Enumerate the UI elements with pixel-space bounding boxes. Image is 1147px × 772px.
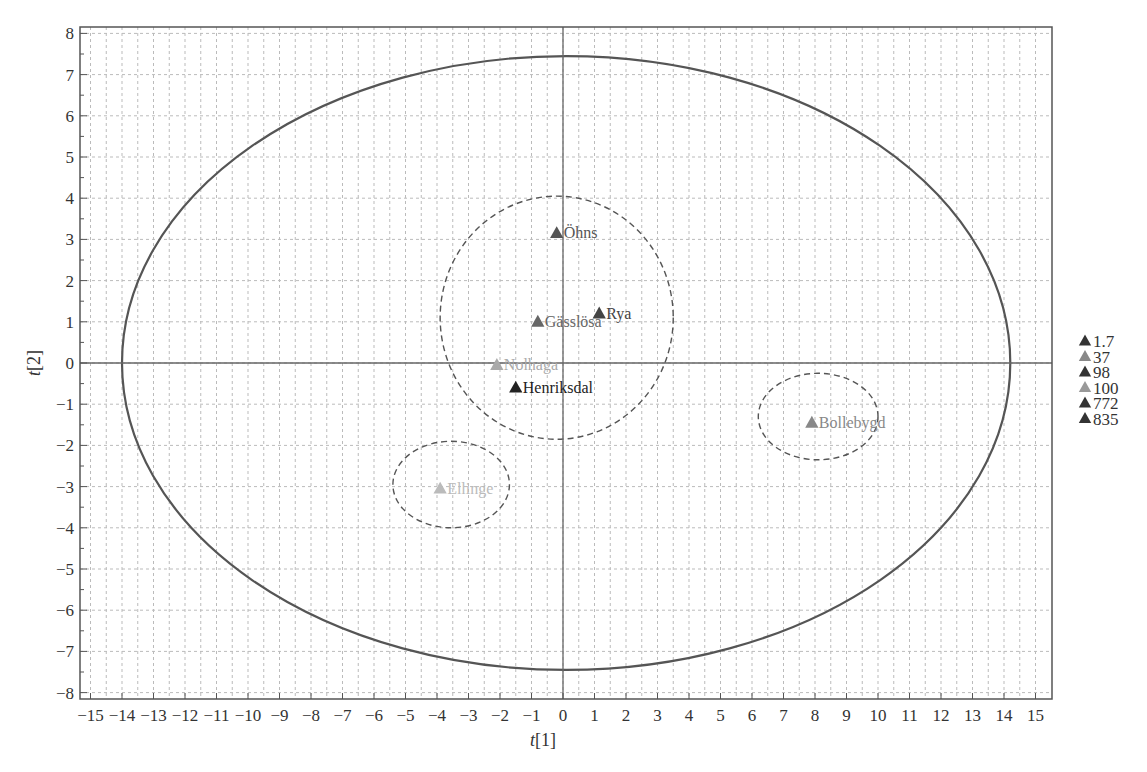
y-tick-label: 6 [66, 107, 75, 126]
x-tick-label: −11 [204, 706, 230, 725]
y-tick-label: −5 [56, 560, 74, 579]
point-label: Rya [606, 305, 631, 323]
x-tick-label: −15 [77, 706, 104, 725]
x-tick-label: −12 [172, 706, 199, 725]
x-tick-label: 4 [685, 706, 694, 725]
x-tick-label: −14 [109, 706, 136, 725]
y-tick-label: 5 [66, 148, 75, 167]
legend-entry: 835 [1079, 410, 1119, 429]
x-tick-label: 8 [811, 706, 820, 725]
x-tick-label: 7 [779, 706, 788, 725]
data-point: Gässlösa [531, 313, 602, 330]
data-point: Henriksdal [509, 379, 593, 396]
x-axis-label: t[1] [530, 730, 556, 750]
x-tick-label: 3 [653, 706, 662, 725]
x-tick-label: 15 [1027, 706, 1044, 725]
point-label: Nolhaga [504, 356, 558, 374]
y-tick-label: 1 [66, 313, 75, 332]
point-label: Henriksdal [523, 379, 594, 396]
point-label: Ellinge [447, 480, 493, 498]
y-tick-label: −6 [56, 601, 74, 620]
y-tick-label: 2 [66, 272, 75, 291]
x-tick-label: −5 [396, 706, 414, 725]
point-label: Bollebygd [819, 414, 886, 432]
x-tick-label: 0 [559, 706, 568, 725]
triangle-legend-icon [1079, 397, 1091, 408]
x-tick-label: −1 [522, 706, 540, 725]
x-tick-label: 14 [996, 706, 1014, 725]
y-tick-label: −4 [56, 519, 75, 538]
triangle-marker-icon [531, 315, 544, 327]
y-tick-label: −2 [56, 436, 74, 455]
triangle-marker-icon [509, 381, 522, 393]
x-tick-label: −7 [333, 706, 352, 725]
x-tick-label: −13 [140, 706, 167, 725]
triangle-legend-icon [1079, 350, 1091, 361]
data-points: ÖhnsRyaGässlösaNolhagaHenriksdalEllingeB… [434, 224, 886, 497]
y-tick-label: −1 [56, 395, 74, 414]
point-label: Gässlösa [545, 313, 602, 330]
x-tick-label: 11 [901, 706, 917, 725]
data-point: Ellinge [434, 480, 494, 498]
x-tick-label: −4 [428, 706, 447, 725]
y-tick-label: 8 [66, 24, 75, 43]
triangle-marker-icon [805, 416, 818, 428]
y-tick-label: 0 [66, 354, 75, 373]
triangle-marker-icon [490, 358, 503, 370]
y-tick-label: −7 [56, 642, 75, 661]
y-tick-label: −3 [56, 478, 74, 497]
zero-axes [80, 27, 1052, 699]
triangle-marker-icon [434, 482, 447, 494]
y-tick-label: −8 [56, 684, 74, 703]
x-tick-label: 1 [590, 706, 599, 725]
legend: 1.73798100772835 [1079, 332, 1119, 429]
triangle-legend-icon [1079, 335, 1091, 346]
y-tick-label: 4 [66, 189, 75, 208]
x-tick-label: 6 [748, 706, 757, 725]
triangle-legend-icon [1079, 412, 1091, 423]
x-tick-label: 10 [870, 706, 887, 725]
y-tick-label: 7 [66, 66, 75, 85]
triangle-legend-icon [1079, 381, 1091, 392]
y-axis-label: t[2] [24, 350, 44, 376]
data-point: Öhns [550, 224, 597, 241]
x-tick-label: −10 [235, 706, 262, 725]
x-tick-label: −8 [302, 706, 320, 725]
x-tick-label: 12 [933, 706, 950, 725]
x-tick-label: 2 [622, 706, 631, 725]
legend-label: 835 [1093, 410, 1119, 429]
y-axis-ticks: −8−7−6−5−4−3−2−1012345678 [56, 24, 87, 702]
triangle-marker-icon [550, 226, 563, 238]
x-tick-label: 5 [716, 706, 725, 725]
score-scatter-plot: −15−14−13−12−11−10−9−8−7−6−5−4−3−2−10123… [0, 0, 1147, 772]
x-tick-label: 13 [964, 706, 981, 725]
x-tick-label: 9 [842, 706, 851, 725]
data-point: Bollebygd [805, 414, 885, 432]
x-tick-label: −2 [491, 706, 509, 725]
triangle-legend-icon [1079, 366, 1091, 377]
x-tick-label: −6 [365, 706, 383, 725]
y-tick-label: 3 [66, 230, 75, 249]
x-axis-ticks: −15−14−13−12−11−10−9−8−7−6−5−4−3−2−10123… [77, 693, 1044, 725]
x-tick-label: −9 [270, 706, 288, 725]
x-tick-label: −3 [459, 706, 477, 725]
point-label: Öhns [564, 224, 598, 241]
